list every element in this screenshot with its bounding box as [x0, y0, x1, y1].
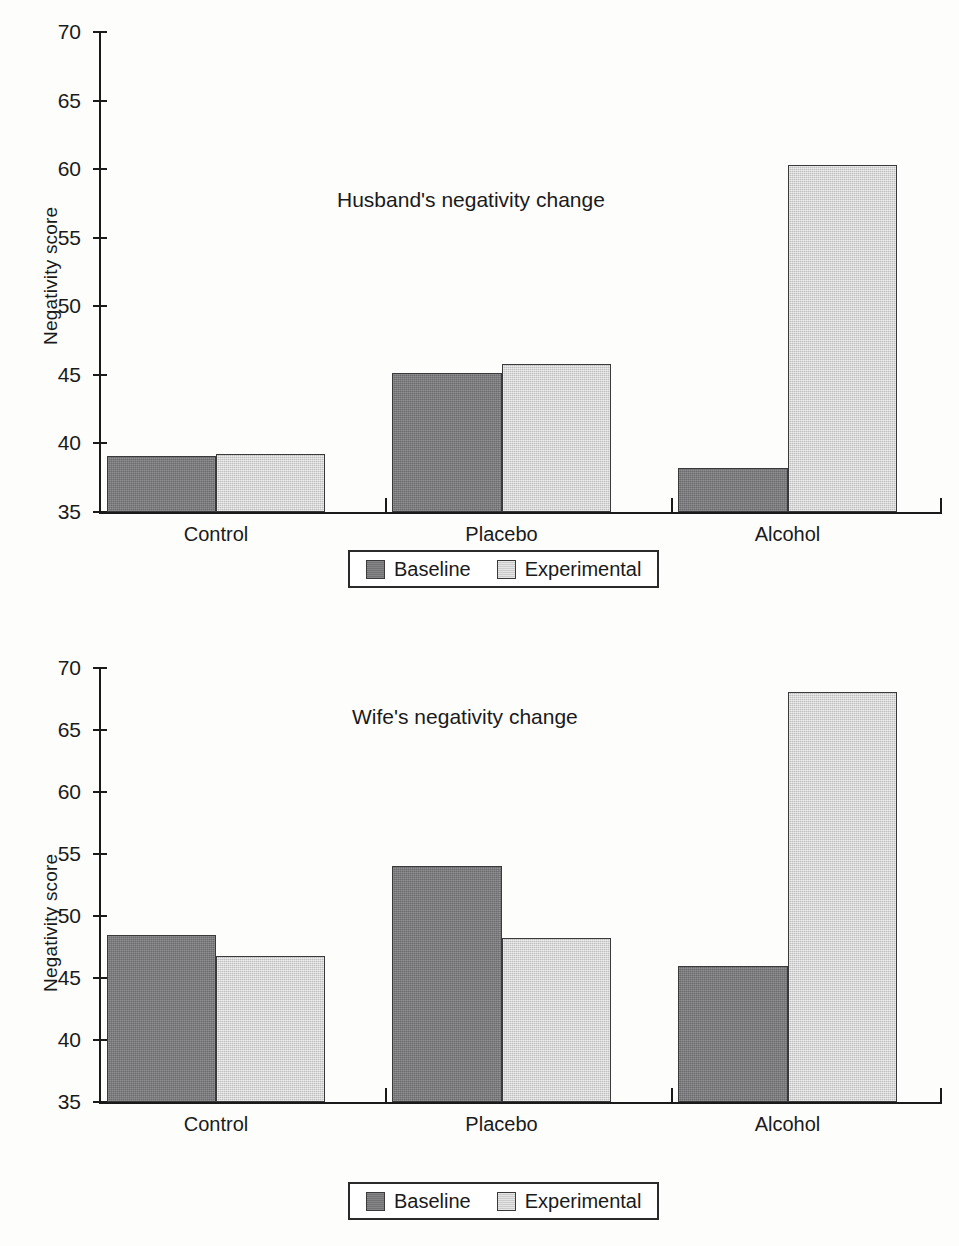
y-tick-label: 65 — [35, 719, 81, 740]
legend-label-baseline: Baseline — [394, 1191, 471, 1211]
legend-swatch-baseline-icon — [366, 560, 385, 579]
y-tick-label: 55 — [35, 843, 81, 864]
legend-swatch-experimental-icon — [497, 560, 516, 579]
chart-panel-wife: Negativity score 3540455055606570 Wife's… — [0, 620, 959, 1246]
bar-experimental-alcohol — [788, 692, 898, 1102]
x-axis-separator — [385, 498, 387, 514]
legend-item-experimental: Experimental — [497, 1191, 642, 1211]
y-tick-label: 55 — [35, 227, 81, 248]
bar-experimental-control — [216, 454, 325, 512]
bar-baseline-alcohol — [678, 468, 788, 512]
y-axis-line-wife — [99, 668, 101, 1102]
x-tick-label-placebo: Placebo — [352, 1114, 651, 1134]
legend-wife: Baseline Experimental — [348, 1182, 659, 1220]
x-axis-separator — [385, 1088, 387, 1104]
chart-title-husband: Husband's negativity change — [337, 188, 605, 212]
legend-label-experimental: Experimental — [525, 559, 642, 579]
x-tick-label-placebo: Placebo — [352, 524, 651, 544]
bar-baseline-placebo — [392, 373, 502, 512]
bar-experimental-control — [216, 956, 325, 1102]
legend-item-baseline: Baseline — [366, 559, 471, 579]
bar-baseline-alcohol — [678, 966, 788, 1102]
legend-husband: Baseline Experimental — [348, 550, 659, 588]
legend-swatch-experimental-icon — [497, 1192, 516, 1211]
bar-baseline-control — [107, 935, 216, 1102]
x-axis-line-husband — [99, 512, 940, 514]
legend-item-baseline: Baseline — [366, 1191, 471, 1211]
legend-label-baseline: Baseline — [394, 559, 471, 579]
y-tick-label: 35 — [35, 1091, 81, 1112]
chart-title-wife: Wife's negativity change — [352, 705, 578, 729]
x-axis-separator — [940, 1088, 942, 1104]
x-tick-label-alcohol: Alcohol — [638, 524, 937, 544]
y-tick-label: 45 — [35, 364, 81, 385]
legend-label-experimental: Experimental — [525, 1191, 642, 1211]
x-axis-separator — [940, 498, 942, 514]
y-tick-label: 45 — [35, 967, 81, 988]
y-tick-label: 40 — [35, 432, 81, 453]
x-axis-separator — [671, 498, 673, 514]
y-tick-label: 35 — [35, 501, 81, 522]
y-tick-label: 60 — [35, 781, 81, 802]
y-tick-label: 70 — [35, 657, 81, 678]
bar-experimental-placebo — [502, 364, 612, 512]
bar-experimental-placebo — [502, 938, 612, 1102]
y-axis-line-husband — [99, 32, 101, 512]
y-tick-label: 70 — [35, 21, 81, 42]
bar-baseline-placebo — [392, 866, 502, 1102]
x-tick-label-alcohol: Alcohol — [638, 1114, 937, 1134]
legend-swatch-baseline-icon — [366, 1192, 385, 1211]
x-tick-label-control: Control — [67, 524, 365, 544]
bar-baseline-control — [107, 456, 216, 512]
legend-item-experimental: Experimental — [497, 559, 642, 579]
bar-experimental-alcohol — [788, 165, 898, 512]
chart-panel-husband: Negativity score 3540455055606570 Husban… — [0, 0, 959, 620]
y-tick-label: 50 — [35, 905, 81, 926]
x-tick-label-control: Control — [67, 1114, 365, 1134]
y-tick-label: 50 — [35, 295, 81, 316]
y-tick-label: 60 — [35, 158, 81, 179]
x-axis-separator — [671, 1088, 673, 1104]
x-axis-line-wife — [99, 1102, 940, 1104]
y-tick-label: 65 — [35, 90, 81, 111]
y-tick-label: 40 — [35, 1029, 81, 1050]
